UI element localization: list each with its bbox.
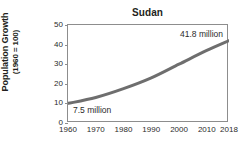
y-axis-tick-label: 50 [38,20,68,30]
y-axis-tick-mark [65,45,68,46]
y-axis-tick-label: 10 [38,98,68,108]
annotation-start-value: 7.5 million [72,105,112,115]
y-axis-tick-label: 20 [38,79,68,89]
y-axis-tick-mark [65,123,68,124]
chart-title: Sudan [67,7,228,18]
chart-figure: Sudan Population Growth (1960 = 100) 010… [0,0,240,150]
y-axis-tick-label: 30 [38,59,68,69]
y-axis-title-line-1: Population Growth [0,0,11,108]
y-axis-title-line-2: (1960 = 100) [11,0,21,108]
y-axis-tick-mark [65,84,68,85]
annotation-end-value: 41.8 million [179,29,224,39]
series-path-sudan [68,41,229,104]
y-axis-tick-mark [65,103,68,104]
y-axis-tick-label: 40 [38,40,68,50]
x-axis-tick-label: 2018 [212,125,240,135]
y-axis-tick-mark [65,25,68,26]
y-axis-title: Population Growth (1960 = 100) [0,0,34,108]
plot-area: 01020304050 1960197019801990200020102018… [67,24,228,122]
y-axis-tick-mark [65,64,68,65]
